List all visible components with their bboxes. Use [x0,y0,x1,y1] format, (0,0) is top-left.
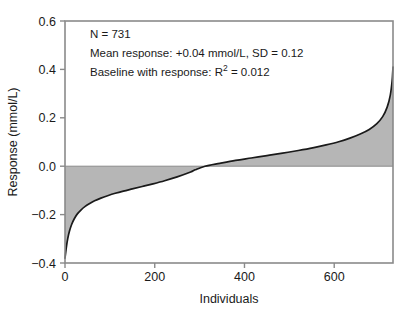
y-axis-ticks: −0.4−0.20.00.20.40.6 [31,15,65,271]
annotation-mean-response: Mean response: +0.04 mmol/L, SD = 0.12 [90,47,304,59]
x-axis-tick-label: 400 [234,270,255,284]
y-axis-tick-label: 0.4 [39,63,56,77]
x-axis-tick-label: 600 [324,270,345,284]
chart-figure: −0.4−0.20.00.20.40.6 0200400600 Individu… [0,0,411,315]
x-axis-ticks: 0200400600 [62,263,345,284]
annotation-baseline-r-squared: Baseline with response: R2 = 0.012 [90,63,270,78]
y-axis-tick-label: −0.4 [31,257,56,271]
y-axis-tick-label: −0.2 [31,208,56,222]
y-axis-tick-label: 0.0 [39,160,56,174]
y-axis-tick-label: 0.6 [39,15,56,29]
y-axis-tick-label: 0.2 [39,111,56,125]
x-axis-title: Individuals [199,292,258,306]
response-distribution-chart: −0.4−0.20.00.20.40.6 0200400600 Individu… [0,0,411,315]
x-axis-tick-label: 0 [62,270,69,284]
annotation-sample-size: N = 731 [90,28,131,40]
x-axis-tick-label: 200 [144,270,165,284]
y-axis-title: Response (mmol/L) [6,87,20,196]
